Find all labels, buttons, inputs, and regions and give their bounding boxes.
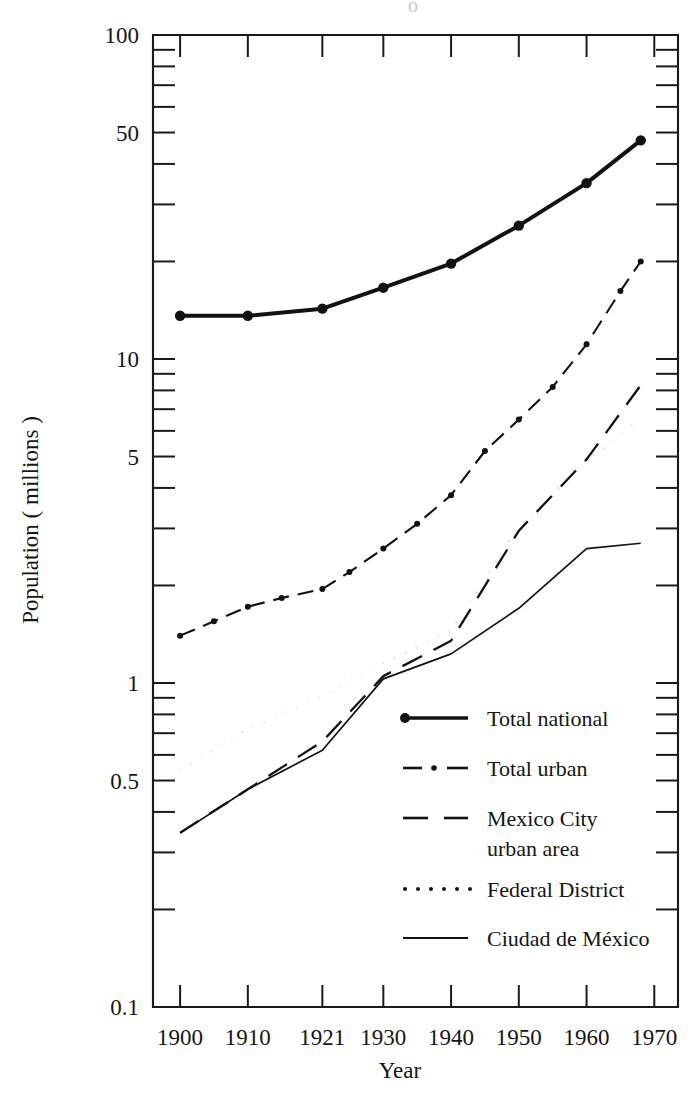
data-point-marker <box>638 258 644 264</box>
x-tick-label: 1940 <box>428 1025 474 1050</box>
axes <box>153 35 678 1007</box>
data-point-marker <box>514 220 524 230</box>
y-axis-title: Population ( millions ) <box>18 416 43 624</box>
data-point-marker <box>243 311 253 321</box>
legend-entry-1: Total urban <box>403 756 587 781</box>
legend-entry-3: Federal District <box>403 877 624 902</box>
x-tick-label: 1970 <box>631 1025 677 1050</box>
y-tick-label: 0.5 <box>110 769 139 794</box>
y-axis-tick-labels: 1005010510.50.1 <box>105 23 140 1020</box>
data-point-marker <box>414 521 420 527</box>
legend-label: Mexico City <box>487 806 598 831</box>
series-line-0 <box>180 140 641 315</box>
data-point-marker <box>317 303 327 313</box>
y-tick-label: 0.1 <box>110 995 139 1020</box>
x-tick-label: 1960 <box>564 1025 610 1050</box>
data-point-marker <box>448 492 454 498</box>
chart-legend: Total nationalTotal urbanMexico Cityurba… <box>400 706 650 951</box>
x-axis-tick-labels: 19001910192119301940195019601970 <box>157 1025 677 1050</box>
legend-entry-0: Total national <box>400 706 608 731</box>
data-point-marker <box>378 282 388 292</box>
data-point-marker <box>279 595 285 601</box>
legend-entry-2: Mexico Cityurban area <box>403 806 598 861</box>
data-point-marker <box>584 341 590 347</box>
data-point-marker <box>211 618 217 624</box>
x-tick-label: 1900 <box>157 1025 203 1050</box>
legend-label: Total national <box>487 706 608 731</box>
y-tick-label: 100 <box>105 23 140 48</box>
legend-label: Federal District <box>487 877 624 902</box>
data-point-marker <box>380 546 386 552</box>
chart-canvas: 1005010510.50.1 190019101921193019401950… <box>0 0 698 1093</box>
legend-label-line2: urban area <box>487 836 579 861</box>
data-point-marker <box>245 604 251 610</box>
data-point-marker <box>581 178 591 188</box>
data-point-marker <box>319 586 325 592</box>
data-point-marker <box>446 258 456 268</box>
data-point-marker <box>175 311 185 321</box>
legend-entry-4: Ciudad de México <box>403 926 650 951</box>
data-point-marker <box>550 384 556 390</box>
population-log-chart: o 1005010510.50.1 1900191019211930194019… <box>0 0 698 1093</box>
y-tick-label: 50 <box>116 121 139 146</box>
y-tick-label: 5 <box>128 445 140 470</box>
scan-artifact-glyph: o <box>408 0 418 17</box>
data-point-marker <box>617 288 623 294</box>
x-tick-label: 1930 <box>360 1025 406 1050</box>
x-tick-label: 1921 <box>299 1025 345 1050</box>
data-point-marker <box>177 633 183 639</box>
legend-label: Total urban <box>487 756 587 781</box>
x-tick-label: 1910 <box>225 1025 271 1050</box>
legend-sample-marker <box>400 713 410 723</box>
y-tick-label: 1 <box>128 671 140 696</box>
data-point-marker <box>516 417 522 423</box>
data-point-marker <box>482 448 488 454</box>
legend-label: Ciudad de México <box>487 926 650 951</box>
x-tick-label: 1950 <box>496 1025 542 1050</box>
data-point-marker <box>346 569 352 575</box>
y-tick-label: 10 <box>116 347 139 372</box>
data-point-marker <box>636 135 646 145</box>
y-axis-ticks <box>153 35 678 1007</box>
x-axis-title: Year <box>379 1058 422 1083</box>
